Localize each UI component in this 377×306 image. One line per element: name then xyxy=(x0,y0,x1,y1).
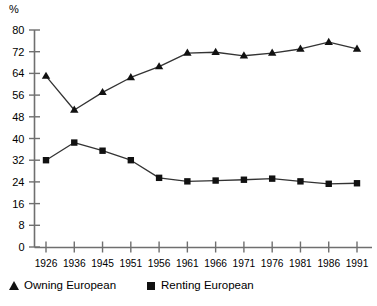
x-axis-tick-label: 1971 xyxy=(233,258,256,269)
data-point-square xyxy=(184,178,190,184)
line-chart-plot: 08162432404856647280 1926193619451951195… xyxy=(0,0,377,306)
x-axis-tick-label: 1936 xyxy=(63,258,86,269)
chart-container: % 08162432404856647280 19261936194519511… xyxy=(0,0,377,306)
data-point-square xyxy=(269,175,275,181)
x-axis-tick-label: 1966 xyxy=(204,258,227,269)
series-renting-european xyxy=(43,139,360,187)
data-point-square xyxy=(326,181,332,187)
x-axis-tick-label: 1991 xyxy=(346,258,369,269)
data-point-triangle xyxy=(325,38,333,45)
y-axis-tick-label: 48 xyxy=(12,111,24,123)
legend-label-owning-european: Owning European xyxy=(24,279,116,291)
chart-legend: Owning European Renting European xyxy=(9,279,254,291)
data-point-triangle xyxy=(42,72,50,79)
y-axis-tick-label: 64 xyxy=(12,67,24,79)
data-point-square xyxy=(156,175,162,181)
y-axis-tick-label: 24 xyxy=(12,176,24,188)
legend-item-owning-european: Owning European xyxy=(9,279,116,291)
y-axis-tick-label: 32 xyxy=(12,154,24,166)
y-axis-tick-label: 0 xyxy=(18,241,24,253)
data-point-square xyxy=(212,177,218,183)
data-point-square xyxy=(354,180,360,186)
x-axis-tick-label: 1945 xyxy=(91,258,114,269)
y-axis-tick-label: 16 xyxy=(12,198,24,210)
x-axis-tick-label: 1961 xyxy=(176,258,199,269)
x-axis-tick-label: 1981 xyxy=(289,258,312,269)
x-axis-tick-group: 1926193619451951195619611966197119761981… xyxy=(35,242,369,270)
triangle-marker-icon xyxy=(9,280,19,290)
data-point-square xyxy=(297,178,303,184)
x-axis-tick-label: 1926 xyxy=(35,258,58,269)
data-point-square xyxy=(71,139,77,145)
y-axis-tick-label: 72 xyxy=(12,46,24,58)
x-axis-tick-label: 1951 xyxy=(119,258,142,269)
x-axis-tick-label: 1976 xyxy=(261,258,284,269)
y-axis-tick-label: 8 xyxy=(18,219,24,231)
series-owning-european xyxy=(42,38,361,113)
y-axis-tick-label: 40 xyxy=(12,133,24,145)
legend-label-renting-european: Renting European xyxy=(161,279,254,291)
series-line xyxy=(46,143,357,184)
data-point-triangle xyxy=(211,48,219,55)
series-line xyxy=(46,42,357,110)
x-axis-tick-label: 1986 xyxy=(317,258,340,269)
y-axis-tick-label: 80 xyxy=(12,24,24,36)
data-point-triangle xyxy=(183,49,191,56)
data-point-square xyxy=(99,148,105,154)
square-marker-icon xyxy=(146,280,156,290)
data-point-square xyxy=(128,157,134,163)
series-layer xyxy=(42,38,361,187)
y-axis-tick-group: 08162432404856647280 xyxy=(12,24,40,253)
x-axis-tick-label: 1956 xyxy=(148,258,171,269)
y-axis-tick-label: 56 xyxy=(12,89,24,101)
data-point-square xyxy=(43,157,49,163)
legend-item-renting-european: Renting European xyxy=(146,279,254,291)
data-point-square xyxy=(241,177,247,183)
